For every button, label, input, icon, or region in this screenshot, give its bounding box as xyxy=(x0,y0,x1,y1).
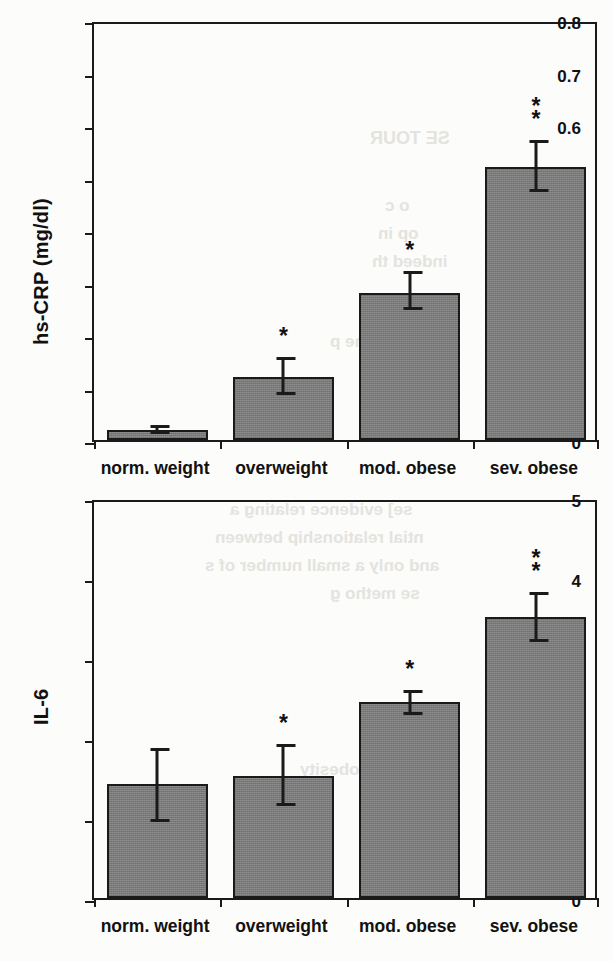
y-axis-tick xyxy=(85,501,94,503)
significance-marker: * xyxy=(405,244,414,257)
error-bar-cap xyxy=(277,392,296,395)
y-axis-tick xyxy=(85,661,94,663)
y-axis-tick-label: 0.6 xyxy=(557,119,581,139)
figure-page: SE TOUR o c op in indeed th ound to the … xyxy=(0,0,613,961)
significance-marker: * * xyxy=(531,552,540,578)
error-bar xyxy=(282,357,285,395)
x-axis-tick xyxy=(597,898,599,907)
x-axis-tick xyxy=(347,440,349,449)
bar[interactable] xyxy=(485,167,586,440)
x-axis-category-label: sev. obese xyxy=(490,916,578,937)
error-bar xyxy=(282,744,285,806)
x-axis-tick xyxy=(473,898,475,907)
x-axis-tick xyxy=(473,440,475,449)
y-axis-title: IL-6 xyxy=(30,689,53,725)
chart-hs-crp: hs-CRP (mg/dl) 00.10.20.30.40.50.60.70.8… xyxy=(0,0,613,480)
error-bar-cap xyxy=(529,140,548,143)
error-bar-cap xyxy=(277,803,296,806)
y-axis-tick xyxy=(85,76,94,78)
significance-marker: * xyxy=(279,717,288,730)
y-axis-tick xyxy=(85,128,94,130)
x-axis-category-label: norm. weight xyxy=(101,916,210,937)
y-axis-tick xyxy=(85,181,94,183)
error-bar-cap xyxy=(151,431,170,434)
error-bar xyxy=(156,425,159,433)
error-bar-cap xyxy=(151,819,170,822)
error-bar-cap xyxy=(151,425,170,428)
x-axis-category-label: overweight xyxy=(235,458,327,479)
y-axis-tick-label: 0.7 xyxy=(557,67,581,87)
y-axis-tick xyxy=(85,901,94,903)
y-axis-tick xyxy=(85,233,94,235)
error-bar-cap xyxy=(403,307,422,310)
error-bar xyxy=(534,592,537,642)
error-bar xyxy=(408,271,411,310)
significance-marker: * * xyxy=(531,100,540,126)
error-bar xyxy=(408,690,411,715)
y-axis-tick-label: 0.8 xyxy=(557,14,581,34)
y-axis-title: hs-CRP (mg/dl) xyxy=(30,198,53,345)
x-axis-category-label: norm. weight xyxy=(101,458,210,479)
y-axis-tick xyxy=(85,443,94,445)
x-axis-tick xyxy=(220,440,222,449)
x-axis-tick xyxy=(597,440,599,449)
y-axis-tick-label: 5 xyxy=(572,492,581,512)
y-axis-tick xyxy=(85,581,94,583)
error-bar-cap xyxy=(403,271,422,274)
x-axis-category-label: mod. obese xyxy=(359,916,456,937)
error-bar xyxy=(534,140,537,192)
error-bar-cap xyxy=(277,744,296,747)
x-axis-category-label: sev. obese xyxy=(490,458,578,479)
error-bar-cap xyxy=(529,189,548,192)
x-axis-category-label: mod. obese xyxy=(359,458,456,479)
x-axis-tick xyxy=(94,898,96,907)
significance-marker: * xyxy=(405,663,414,676)
y-axis-tick xyxy=(85,338,94,340)
x-axis-tick xyxy=(220,898,222,907)
plot-area-il-6: 012345*** * xyxy=(92,500,597,900)
y-axis-tick xyxy=(85,23,94,25)
chart-il-6: IL-6 012345*** * norm. weightoverweightm… xyxy=(0,480,613,961)
error-bar-cap xyxy=(277,357,296,360)
y-axis-tick xyxy=(85,741,94,743)
plot-area-hs-crp: 00.10.20.30.40.50.60.70.8*** * xyxy=(92,22,597,442)
bar[interactable] xyxy=(359,293,460,440)
y-axis-tick xyxy=(85,391,94,393)
error-bar-cap xyxy=(151,748,170,751)
error-bar-cap xyxy=(529,592,548,595)
error-bar xyxy=(156,748,159,822)
x-axis-category-label: overweight xyxy=(235,916,327,937)
y-axis-tick xyxy=(85,286,94,288)
y-axis-tick xyxy=(85,821,94,823)
significance-marker: * xyxy=(279,330,288,343)
error-bar-cap xyxy=(403,712,422,715)
x-axis-tick xyxy=(347,898,349,907)
error-bar-cap xyxy=(403,690,422,693)
bar[interactable] xyxy=(359,702,460,898)
error-bar-cap xyxy=(529,639,548,642)
y-axis-tick-label: 4 xyxy=(572,572,581,592)
x-axis-tick xyxy=(94,440,96,449)
bar[interactable] xyxy=(485,617,586,898)
